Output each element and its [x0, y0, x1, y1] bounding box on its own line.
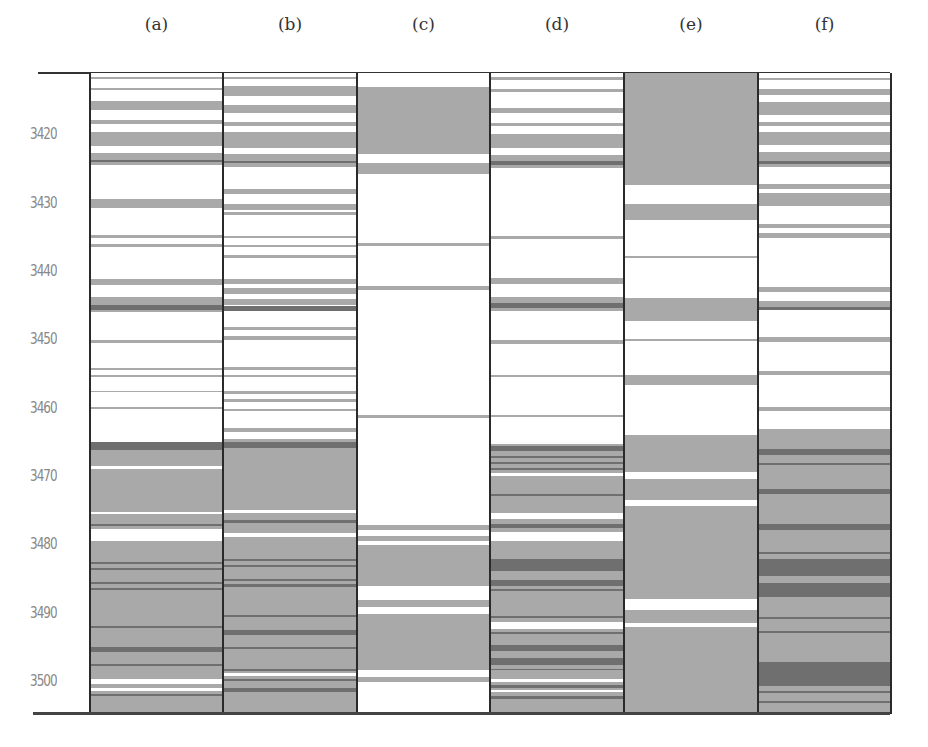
band-dark — [490, 589, 624, 591]
band-light — [758, 224, 891, 228]
band-light — [758, 78, 891, 80]
band-light — [758, 233, 891, 238]
band-dark — [758, 524, 891, 529]
strip-column — [223, 73, 357, 713]
band-dark — [90, 694, 223, 696]
band-light — [758, 152, 891, 166]
band-dark — [758, 552, 891, 554]
band-white — [357, 689, 490, 713]
band-dark — [758, 691, 891, 693]
y-tick-label: 3440 — [30, 262, 86, 280]
band-light — [223, 279, 357, 284]
column-divider — [757, 73, 759, 714]
band-light — [490, 375, 624, 378]
band-dark — [223, 669, 357, 671]
column-divider — [89, 73, 91, 714]
strip-column — [90, 73, 223, 713]
band-dark — [758, 307, 891, 310]
band-dark — [758, 489, 891, 494]
column-label: (b) — [223, 14, 357, 34]
band-dark — [90, 626, 223, 628]
band-light — [90, 88, 223, 90]
band-light — [223, 245, 357, 248]
band-dark — [490, 559, 624, 571]
strip-column — [758, 73, 891, 713]
band-dark — [90, 524, 223, 526]
band-light — [758, 184, 891, 189]
band-light — [223, 255, 357, 258]
band-dark — [223, 688, 357, 693]
column-divider — [489, 73, 491, 714]
band-light — [758, 287, 891, 292]
band-light — [490, 77, 624, 80]
band-dark — [223, 161, 357, 164]
y-tick-label: 3420 — [30, 125, 86, 143]
band-light — [90, 101, 223, 110]
band-dark — [223, 679, 357, 681]
band-light — [223, 105, 357, 113]
band-dark — [758, 559, 891, 576]
band-light — [758, 371, 891, 374]
band-white — [90, 688, 223, 691]
band-dark — [223, 647, 357, 649]
band-light — [357, 677, 490, 682]
band-light — [758, 132, 891, 146]
band-light — [758, 102, 891, 116]
band-light — [90, 132, 223, 146]
bottom-axis-line — [33, 712, 890, 715]
band-dark — [490, 696, 624, 699]
band-light — [223, 391, 357, 394]
band-white — [90, 679, 223, 684]
band-dark — [490, 468, 624, 470]
band-dark — [490, 303, 624, 307]
band-dark — [223, 615, 357, 617]
band-light — [90, 368, 223, 370]
band-light — [357, 415, 490, 418]
band-light — [223, 336, 357, 341]
band-white — [490, 679, 624, 682]
band-light — [90, 279, 223, 285]
band-dark — [490, 632, 624, 634]
band-white — [624, 472, 758, 479]
band-light — [357, 614, 490, 670]
band-dark — [758, 449, 891, 454]
band-light — [357, 545, 490, 587]
band-dark — [490, 658, 624, 665]
band-dark — [490, 669, 624, 671]
band-light — [223, 367, 357, 370]
y-tick-label: 3480 — [30, 535, 86, 553]
band-white — [90, 529, 223, 541]
band-light — [357, 243, 490, 246]
band-dark — [490, 494, 624, 496]
band-light — [90, 235, 223, 238]
column-divider — [356, 73, 358, 714]
y-tick-label: 3490 — [30, 604, 86, 622]
band-light — [490, 134, 624, 148]
band-dark — [223, 565, 357, 567]
band-dark — [90, 562, 223, 564]
band-light — [223, 212, 357, 214]
column-divider — [890, 73, 892, 714]
band-dark — [758, 463, 891, 465]
band-white — [490, 473, 624, 476]
strip-column — [624, 73, 758, 713]
band-light — [223, 189, 357, 194]
band-white — [90, 466, 223, 469]
band-light — [90, 77, 223, 79]
band-dark — [490, 161, 624, 164]
band-light — [357, 525, 490, 530]
band-dark — [90, 442, 223, 450]
band-dark — [490, 685, 624, 688]
band-white — [624, 599, 758, 610]
band-dark — [90, 582, 223, 584]
band-dark — [758, 617, 891, 619]
band-dark — [223, 306, 357, 311]
band-dark — [490, 456, 624, 458]
band-light — [490, 108, 624, 113]
y-tick-label: 3450 — [30, 330, 86, 348]
band-light — [90, 340, 223, 343]
band-light — [758, 193, 891, 206]
band-light — [90, 310, 223, 312]
band-light — [357, 87, 490, 154]
band-white — [490, 513, 624, 520]
